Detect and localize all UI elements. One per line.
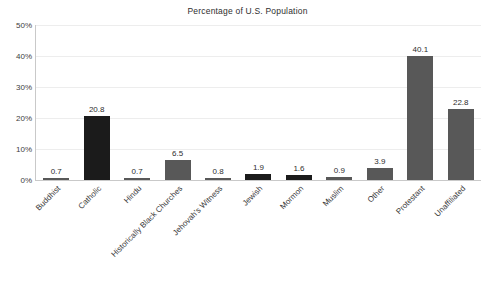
x-axis-label-slot: Buddhist [36,182,76,281]
bar[interactable] [205,178,231,180]
x-axis-label-slot: Unaffiliated [441,182,481,281]
x-axis-label: Hindu [122,184,144,206]
bar-value-label: 0.8 [198,167,238,176]
bar-value-label: 22.8 [441,98,481,107]
x-axis-label-slot: Muslim [319,182,359,281]
x-axis-label: Catholic [76,184,104,212]
bar-group: 1.9 [238,25,278,180]
bar-group: 40.1 [400,25,440,180]
bar[interactable] [124,178,150,180]
x-axis-label: Protestant [395,184,428,217]
bar-group: 3.9 [360,25,400,180]
x-axis-label-slot: Jehovah's Witness [198,182,238,281]
bar[interactable] [367,168,393,180]
x-axis-label: Buddhist [34,184,63,213]
bar-group: 0.7 [117,25,157,180]
bar-group: 0.7 [36,25,76,180]
bar[interactable] [407,56,433,180]
bar-value-label: 0.7 [117,167,157,176]
bar[interactable] [165,160,191,180]
x-axis-label-slot: Protestant [400,182,440,281]
y-axis-tick-labels: 0%10%20%30%40%50% [0,0,32,281]
chart-title: Percentage of U.S. Population [0,6,495,16]
gridline [36,180,481,181]
bar-group: 1.6 [279,25,319,180]
bar-group: 22.8 [441,25,481,180]
bar-group: 20.8 [76,25,116,180]
bar-value-label: 3.9 [360,157,400,166]
bar[interactable] [43,178,69,180]
x-axis-label: Muslim [321,184,346,209]
bar[interactable] [84,116,110,180]
bar[interactable] [286,175,312,180]
bar-value-label: 0.9 [319,166,359,175]
bar-group: 6.5 [157,25,197,180]
bar-value-label: 1.9 [238,163,278,172]
x-axis-label: Other [366,184,387,205]
x-axis-category-labels: BuddhistCatholicHinduHistorically Black … [36,182,481,281]
bar[interactable] [448,109,474,180]
y-axis-tick-label: 10% [2,145,32,154]
bar-value-label: 40.1 [400,45,440,54]
y-axis-tick-label: 0% [2,176,32,185]
y-axis-tick-label: 20% [2,114,32,123]
bar-group: 0.8 [198,25,238,180]
x-axis-label-slot: Jewish [238,182,278,281]
bar-value-label: 6.5 [157,149,197,158]
bar-value-label: 1.6 [279,164,319,173]
y-axis-tick-label: 40% [2,52,32,61]
x-axis-label-slot: Mormon [279,182,319,281]
bar[interactable] [245,174,271,180]
bar-value-label: 20.8 [76,105,116,114]
x-axis-label-slot: Catholic [76,182,116,281]
bar-group: 0.9 [319,25,359,180]
plot-area: 0.720.80.76.50.81.91.60.93.940.122.8 [36,25,481,180]
bar[interactable] [326,177,352,180]
bar-chart: Percentage of U.S. Population 0%10%20%30… [0,0,495,281]
x-axis-label-slot: Other [360,182,400,281]
y-axis-tick-label: 30% [2,83,32,92]
x-axis-label: Mormon [278,184,306,212]
y-axis-tick-label: 50% [2,21,32,30]
bar-value-label: 0.7 [36,167,76,176]
x-axis-label: Jewish [241,184,265,208]
